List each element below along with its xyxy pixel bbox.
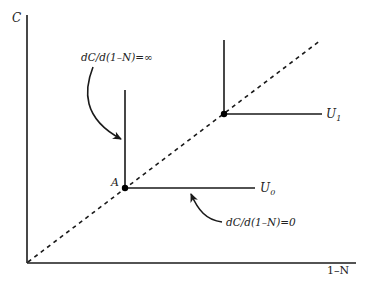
indifference-curve-diagram: C 1–N A U0 U1 dC/d(1–N)=∞ dC/d(1–N)=0 [0, 0, 372, 287]
point-a-label: A [110, 176, 119, 189]
x-axis-label: 1–N [327, 264, 349, 277]
kink-point-a [122, 185, 128, 191]
kink-point-u1 [221, 111, 227, 117]
indifference-curve-u0: A U0 [110, 90, 275, 197]
dashed-ray [28, 40, 321, 262]
y-axis-label: C [12, 11, 21, 25]
indifference-curve-u1: U1 [221, 40, 341, 123]
vertical-slope-label: dC/d(1–N)=∞ [81, 51, 153, 63]
u0-label: U0 [260, 181, 275, 197]
u1-label: U1 [326, 107, 341, 123]
horizontal-slope-label: dC/d(1–N)=0 [226, 216, 296, 228]
annotation-horizontal-slope: dC/d(1–N)=0 [191, 194, 296, 228]
horizontal-slope-arrow-icon [191, 194, 222, 222]
annotation-vertical-slope: dC/d(1–N)=∞ [81, 51, 153, 139]
vertical-slope-arrow-icon [88, 67, 121, 139]
